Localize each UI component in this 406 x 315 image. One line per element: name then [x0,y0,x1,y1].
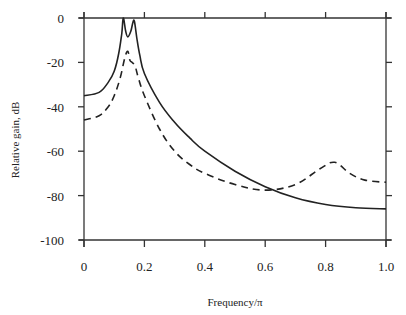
y-tick-label: -20 [47,55,64,70]
y-tick-label: -80 [47,189,64,204]
frequency-response-chart: 00.20.40.60.81.0 0-20-40-60-80-100 Frequ… [0,0,406,315]
x-tick-label: 0.2 [136,259,152,274]
x-tick-label: 0.6 [257,259,274,274]
y-tick-label: -40 [47,100,64,115]
y-tick-label: -100 [40,233,64,248]
x-axis-label: Frequency/π [207,296,262,308]
y-tick-label: 0 [58,11,65,26]
y-axis-ticks: 0-20-40-60-80-100 [40,11,392,248]
y-tick-label: -60 [47,144,64,159]
solid-curve [84,18,386,209]
dashed-curve [84,51,386,190]
plot-frame [79,12,391,247]
x-tick-label: 0.8 [317,259,333,274]
data-series [84,18,386,209]
x-tick-label: 0 [81,259,88,274]
x-tick-label: 0.4 [197,259,214,274]
y-axis-label: Relative gain, dB [9,102,21,179]
x-tick-label: 1.0 [378,259,394,274]
